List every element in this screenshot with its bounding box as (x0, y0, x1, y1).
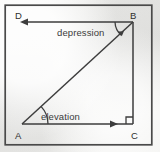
right-angle-marker (126, 117, 133, 124)
vertex-label-d: D (15, 11, 22, 21)
vertex-label-b: B (130, 11, 136, 21)
depression-label: depression (57, 28, 104, 38)
vertex-label-c: C (131, 131, 138, 141)
elevation-label: elevation (41, 112, 80, 122)
vertex-label-a: A (15, 131, 21, 141)
diagram-canvas: depression elevation D B A C (0, 0, 160, 152)
arrowhead-toward-c (110, 121, 118, 128)
